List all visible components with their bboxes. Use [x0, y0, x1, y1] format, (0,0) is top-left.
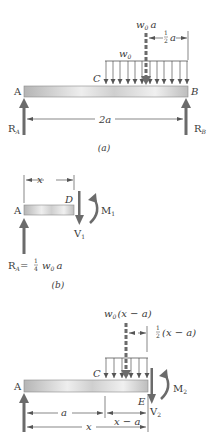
point-b: B: [190, 86, 198, 97]
beam-ae: [24, 380, 148, 392]
panel-b: x D A M1 V1 RA= 1 4 w0a (b): [8, 174, 115, 290]
dim-x-minus-a-label: x − a: [114, 416, 140, 427]
shear-v1-label: V1: [73, 228, 85, 240]
resultant-label: w0(x − a): [104, 308, 152, 320]
shear-v1-arrow-icon: [75, 191, 84, 225]
half-expr: (x − a): [162, 327, 196, 338]
resultant-arrow-icon: [121, 323, 131, 379]
frac-num: 1: [34, 257, 38, 264]
point-c: C: [93, 368, 101, 379]
span-label: 2a: [98, 114, 111, 125]
point-d: D: [64, 194, 73, 205]
shear-v2-label: V2: [149, 406, 161, 418]
half-x-minus-a-dimension: [129, 326, 147, 352]
load-label: w0: [119, 48, 132, 60]
beam-ad: [24, 205, 74, 215]
frac-den: 4: [34, 265, 38, 272]
length-label: x: [37, 174, 43, 185]
panel-a: w0a 1 2 a w0 C A B 2a RA RB (a): [8, 19, 207, 153]
point-e: E: [137, 396, 146, 407]
shear-v2-arrow-icon: [148, 368, 157, 404]
panel-c: w0(x − a) 1 2 (x − a) C A E M2 V2 a x − …: [13, 308, 196, 432]
resultant-arrow-icon: [141, 33, 151, 85]
half-den: 2: [156, 332, 160, 339]
beam-ab: [24, 86, 188, 97]
moment-m1-arrow-icon: [88, 193, 97, 223]
reaction-a-equation: RA=: [8, 260, 28, 272]
point-a: A: [13, 86, 22, 97]
reaction-a-arrow-icon: [19, 393, 29, 432]
dim-a-label: a: [61, 407, 67, 418]
reaction-b-arrow-icon: [181, 98, 191, 135]
half-num: 1: [164, 29, 168, 36]
moment-m2-label: M2: [173, 383, 187, 395]
caption-a: (a): [98, 143, 111, 153]
moment-m2-arrow-icon: [159, 369, 168, 399]
resultant-label: w0a: [136, 19, 156, 31]
half-num: 1: [156, 324, 160, 331]
half-var: a: [170, 32, 176, 43]
caption-b: (b): [52, 280, 65, 290]
reaction-b-label: RB: [194, 123, 207, 135]
point-c: C: [93, 73, 101, 84]
reaction-a-label: RA: [8, 123, 21, 135]
half-den: 2: [164, 37, 168, 44]
moment-m1-label: M1: [101, 205, 115, 217]
reaction-a-value: w0a: [42, 260, 62, 272]
point-a: A: [13, 381, 22, 392]
reaction-a-arrow-icon: [19, 218, 29, 254]
reaction-a-arrow-icon: [19, 98, 29, 135]
point-a: A: [13, 205, 22, 216]
half-a-dimension: [149, 31, 188, 60]
dim-x-label: x: [86, 421, 92, 432]
